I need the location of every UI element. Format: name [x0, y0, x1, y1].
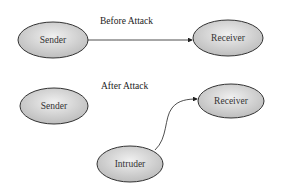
after-attack-title: After Attack — [101, 81, 148, 91]
sender-node-after: Sender — [20, 88, 88, 124]
receiver-node-after: Receiver — [198, 84, 264, 118]
sender-label: Sender — [41, 101, 68, 111]
intruder-label: Intruder — [115, 159, 146, 169]
receiver-label: Receiver — [214, 96, 249, 106]
receiver-label: Receiver — [211, 33, 246, 43]
intruder-node: Intruder — [97, 146, 163, 182]
receiver-node-before: Receiver — [193, 20, 263, 56]
sender-label: Sender — [40, 35, 67, 45]
attack-diagram: Before Attack Sender Receiver After Atta… — [0, 0, 285, 189]
sender-node-before: Sender — [18, 22, 88, 58]
before-attack-title: Before Attack — [100, 16, 153, 26]
intercept-edge — [155, 99, 197, 150]
